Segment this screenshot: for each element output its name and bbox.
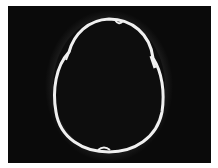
cranial-cavity bbox=[53, 18, 165, 154]
skull-outline bbox=[0, 0, 218, 168]
